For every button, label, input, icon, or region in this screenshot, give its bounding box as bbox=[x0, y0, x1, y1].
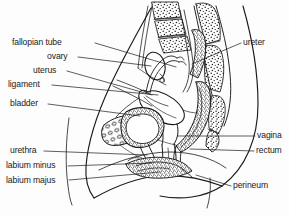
label-perineum: perineum bbox=[233, 181, 268, 190]
label-fallopian-tube: fallopian tube bbox=[12, 38, 62, 47]
label-vagina: vagina bbox=[257, 131, 282, 140]
label-uterus: uterus bbox=[33, 66, 56, 75]
label-urethra: urethra bbox=[10, 146, 37, 155]
leader-line-rectum bbox=[190, 149, 254, 151]
leader-line-perineum bbox=[196, 175, 231, 186]
sigmoid-colon bbox=[190, 29, 206, 78]
label-ovary: ovary bbox=[47, 52, 68, 61]
label-ligament: ligament bbox=[8, 80, 40, 89]
leader-line-bladder bbox=[48, 104, 140, 116]
leader-line-uterus bbox=[67, 71, 152, 95]
leader-line-ovary bbox=[78, 57, 151, 66]
label-labium-majus: labium majus bbox=[6, 176, 55, 185]
rectum-body bbox=[174, 81, 211, 169]
label-rectum: rectum bbox=[256, 146, 282, 155]
label-ureter: ureter bbox=[243, 38, 265, 47]
label-bladder: bladder bbox=[10, 99, 38, 108]
label-labium-minus: labium minus bbox=[6, 161, 55, 170]
perineum-region bbox=[126, 157, 193, 178]
